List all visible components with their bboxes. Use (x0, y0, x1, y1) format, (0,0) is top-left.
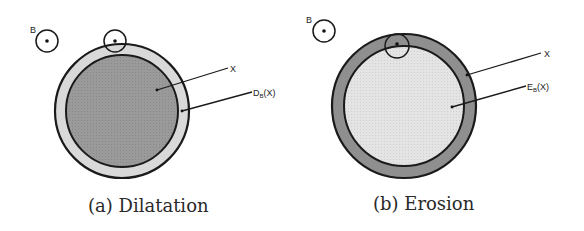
label-dilation: DB(X) (253, 88, 276, 99)
label-b: B (30, 25, 36, 35)
structuring-element-origin (45, 39, 49, 43)
set-x-disk (66, 55, 178, 167)
panel-dilatation: B X DB(X) (30, 25, 276, 178)
label-b: B (306, 15, 312, 25)
label-erosion: EB(X) (527, 82, 549, 93)
leader-line-x (467, 53, 541, 75)
probe-origin (395, 42, 399, 46)
label-x: X (544, 49, 550, 59)
panel-erosion: B X EB(X) (306, 15, 550, 178)
leader-line-dilation (182, 92, 252, 111)
structuring-element-origin (322, 29, 326, 33)
eroded-set-disk (344, 46, 464, 166)
probe-origin (113, 39, 117, 43)
caption-erosion: (b) Erosion (373, 193, 474, 214)
caption-dilatation: (a) Dilatation (88, 195, 209, 216)
label-x: X (230, 64, 236, 74)
